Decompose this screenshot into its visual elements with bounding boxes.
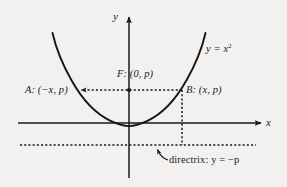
point-b-label-text: B: (x, p): [186, 84, 222, 95]
directrix-label: directrix: y = −p: [169, 155, 239, 166]
directrix-label-text: directrix: y = −p: [169, 154, 239, 165]
curve-equation-label: y = x2: [206, 44, 232, 55]
focus-label-text: F: (0, p): [117, 68, 153, 79]
point-a-label-text: A: (−x, p): [25, 84, 68, 95]
point-b-label: B: (x, p): [186, 85, 222, 96]
curve-equation-text: y = x: [206, 43, 228, 54]
focus-point-marker: [127, 88, 131, 92]
point-a-label: A: (−x, p): [25, 85, 68, 96]
parabola-figure: y x y = x2 F: (0, p) A: (−x, p) B: (x, p…: [0, 0, 287, 187]
x-axis-label: x: [266, 117, 271, 128]
focus-label: F: (0, p): [117, 69, 153, 80]
y-axis-label: y: [113, 11, 118, 22]
directrix-leader-arrow: [158, 150, 169, 161]
curve-exponent: 2: [228, 42, 231, 49]
